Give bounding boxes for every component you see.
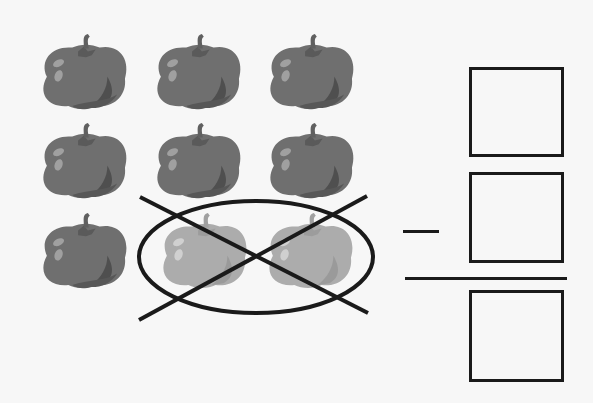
answer-box-minuend[interactable] <box>469 67 564 157</box>
answer-box-difference[interactable] <box>469 290 564 382</box>
minus-sign <box>403 230 439 233</box>
equation-divider-line <box>405 277 567 280</box>
answer-box-subtrahend[interactable] <box>469 172 564 263</box>
